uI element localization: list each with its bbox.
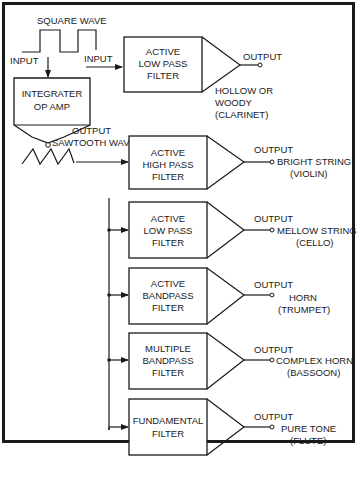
voice-label-line1: HORN [289, 292, 317, 303]
filter-label-line1: ACTIVE [151, 213, 185, 224]
voice-label-line1: COMPLEX HORN [276, 355, 353, 366]
voice-label-line1: HOLLOW OR [215, 85, 273, 96]
integrator-label-line1: INTEGRATER [22, 88, 83, 99]
filter-label-line1: ACTIVE [146, 46, 180, 57]
filter-label-line2: BANDPASS [142, 355, 193, 366]
voice-label-line3: (CLARINET) [215, 109, 268, 120]
filter-label-line3: FILTER [147, 70, 179, 81]
output-label: OUTPUT [254, 344, 293, 355]
voice-label-line2: (CELLO) [296, 237, 333, 248]
filter-label-line1: ACTIVE [151, 278, 185, 289]
output-node-bassoon [270, 358, 274, 362]
output-node-trumpet [270, 293, 274, 297]
filter-label-line1: ACTIVE [151, 147, 185, 158]
output-label: OUTPUT [254, 144, 293, 155]
filter-block-bassoon: MULTIPLE BANDPASS FILTER OUTPUT COMPLEX … [107, 333, 353, 389]
output-node-violin [270, 160, 274, 164]
filter-label-line3: FILTER [152, 302, 184, 313]
voice-label-line2: (BASSOON) [287, 367, 340, 378]
output-node-clarinet [258, 63, 262, 67]
input-label-integrator: INPUT [10, 55, 39, 66]
filter-label-line2: LOW PASS [139, 58, 188, 69]
voice-label-line2: (VIOLIN) [290, 168, 327, 179]
filter-label-line2: BANDPASS [142, 290, 193, 301]
integrator-output-label: OUTPUT [72, 125, 111, 136]
voice-label-line2: (TRUMPET) [278, 304, 330, 315]
filter-label-line1: FUNDAMENTAL [133, 415, 204, 426]
filter-label-line3: FILTER [152, 237, 184, 248]
voice-label-line1: BRIGHT STRING [277, 156, 351, 167]
filter-voice-diagram: SQUARE WAVE INPUT INPUT INTEGRATER OP AM… [0, 0, 361, 480]
filter-label-line3: FILTER [152, 367, 184, 378]
filter-label-line3: FILTER [152, 171, 184, 182]
voice-label-line2: WOODY [215, 97, 253, 108]
filter-label-line2: HIGH PASS [142, 159, 193, 170]
input-label-filter: INPUT [84, 53, 113, 64]
filter-block-violin: ACTIVE HIGH PASS FILTER OUTPUT BRIGHT ST… [129, 136, 351, 189]
output-label: OUTPUT [254, 213, 293, 224]
filter-block-clarinet: ACTIVE LOW PASS FILTER OUTPUT HOLLOW OR … [124, 37, 282, 120]
square-wave-label: SQUARE WAVE [37, 15, 107, 26]
square-wave-icon [22, 30, 96, 52]
sawtooth-label: SAWTOOTH WAVE [52, 137, 136, 148]
filter-label-line1: MULTIPLE [145, 343, 191, 354]
output-node-cello [270, 228, 274, 232]
filter-block-trumpet: ACTIVE BANDPASS FILTER OUTPUT HORN (TRUM… [107, 268, 330, 324]
filter-label-line2: FILTER [152, 428, 184, 439]
filter-label-line2: LOW PASS [144, 225, 193, 236]
sawtooth-wave-icon [22, 149, 74, 164]
integrator-output-node [46, 143, 51, 148]
voice-label-line1: MELLOW STRING [277, 225, 357, 236]
output-node-flute [270, 425, 274, 429]
integrator-label-line2: OP AMP [34, 101, 70, 112]
filter-block-cello: ACTIVE LOW PASS FILTER OUTPUT MELLOW STR… [107, 202, 357, 258]
output-label: OUTPUT [243, 51, 282, 62]
voice-label-line1: PURE TONE [281, 423, 336, 434]
filter-block-flute: FUNDAMENTAL FILTER OUTPUT PURE TONE (FLU… [109, 399, 336, 455]
voice-label-line2: (FLUTE) [290, 435, 326, 446]
output-label: OUTPUT [254, 279, 293, 290]
output-label: OUTPUT [254, 411, 293, 422]
